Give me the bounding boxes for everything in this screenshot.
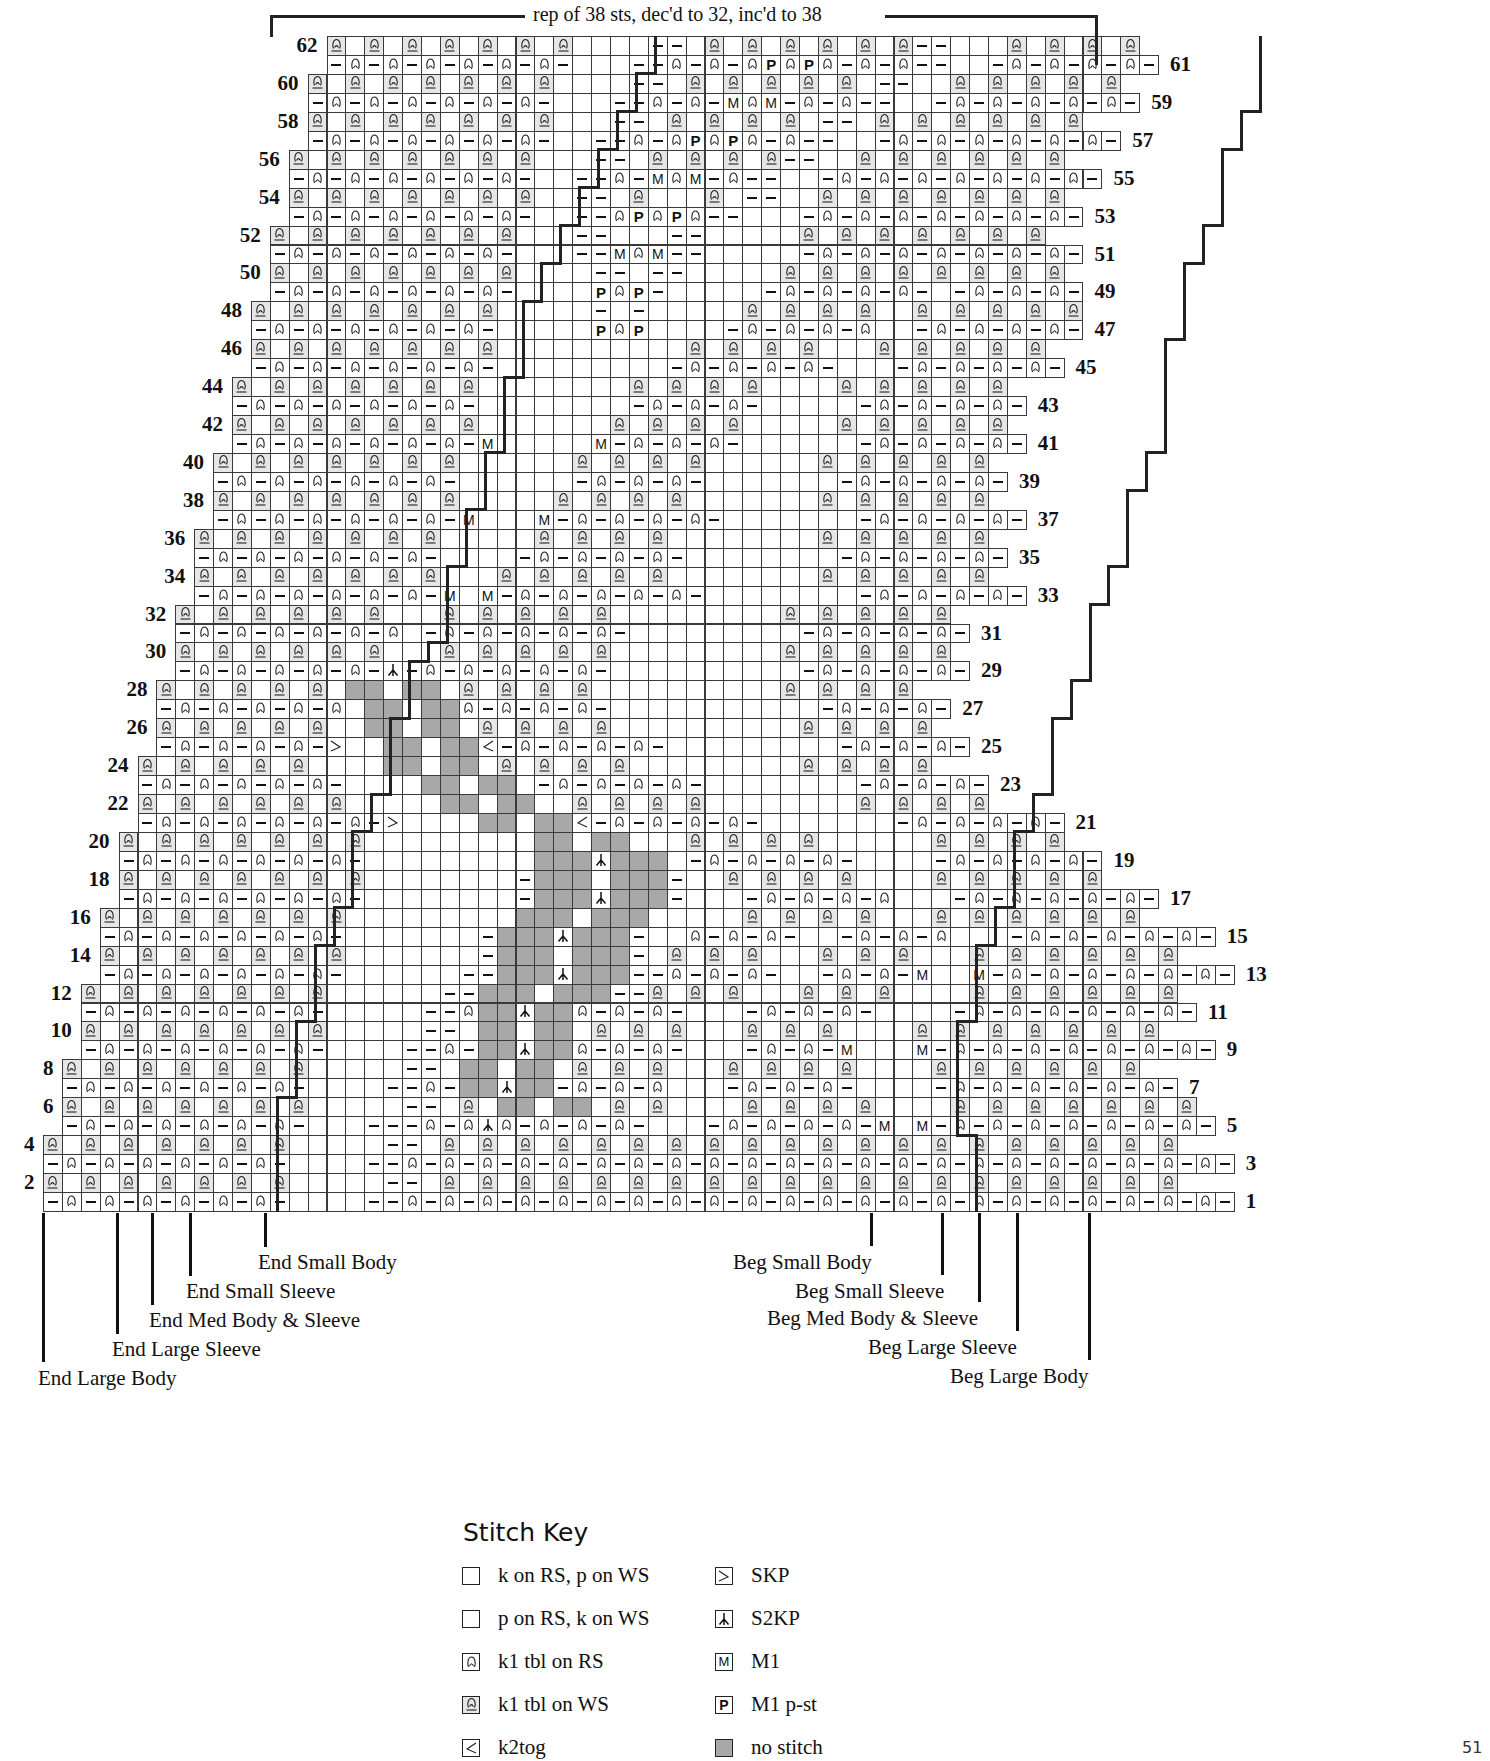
k1-tbl-ws-icon [349, 530, 362, 547]
purl-icon [256, 822, 266, 824]
purl-icon [520, 557, 530, 559]
purl-icon [256, 784, 266, 786]
stitch-k1tbl-ws [950, 112, 970, 132]
stitch-k1tbl-ws [988, 415, 1008, 435]
stitch-k1tbl-ws [364, 605, 384, 625]
stitch-k1tbl-rs [1007, 965, 1027, 985]
stitch-k1tbl-ws [232, 718, 252, 738]
k1-tbl-rs-icon [539, 701, 550, 717]
stitch-k1tbl-rs [175, 889, 195, 909]
stitch-knit [516, 377, 536, 397]
stitch-knit [572, 491, 592, 511]
stitch-knit [818, 756, 838, 776]
beg-marker-line [870, 1213, 873, 1246]
stitch-knit [497, 320, 517, 340]
stitch-knit [345, 453, 365, 473]
stitch-knit [402, 1003, 422, 1023]
stitch-knit [912, 605, 932, 625]
stitch-knit [856, 1059, 876, 1079]
k1-tbl-ws-icon [311, 530, 324, 547]
stitch-knit [761, 226, 781, 246]
purl-icon [672, 1011, 682, 1013]
stitch-knit [421, 1173, 441, 1193]
stitch-k1tbl-rs [742, 93, 762, 113]
repeat-bracket-right [1095, 15, 1098, 65]
stitch-purl [232, 1003, 252, 1023]
stitch-knit [780, 74, 800, 94]
stitch-knit [534, 718, 554, 738]
k1-tbl-ws-icon [292, 454, 305, 471]
stitch-purl [345, 851, 365, 871]
k1-tbl-rs-icon [1049, 891, 1060, 907]
stitch-k1tbl-rs [270, 813, 290, 833]
k1-tbl-rs-icon [331, 398, 342, 414]
purl-icon [1087, 178, 1097, 180]
purl-icon [747, 197, 757, 199]
purl-icon [142, 822, 152, 824]
stitch-purl [610, 472, 630, 492]
stitch-knit [572, 908, 592, 928]
stitch-knit [1101, 984, 1121, 1004]
k1-tbl-ws-icon [273, 833, 286, 850]
purl-icon [464, 102, 474, 104]
stitch-k1tbl-rs [969, 282, 989, 302]
purl-icon [842, 216, 852, 218]
k1-tbl-rs-icon [596, 1194, 607, 1210]
stitch-purl [553, 1078, 573, 1098]
k1-tbl-ws-icon [311, 227, 324, 244]
stitch-purl [421, 1021, 441, 1041]
purl-icon [1012, 822, 1022, 824]
stitch-k1tbl-rs [440, 396, 460, 416]
purl-icon [199, 746, 209, 748]
stitch-k1tbl-rs [723, 927, 743, 947]
stitch-knit [572, 605, 592, 625]
repeat-right-boundary-segment [975, 1192, 978, 1212]
stitch-purl [856, 699, 876, 719]
stitch-knit [497, 377, 517, 397]
stitch-knit [856, 1021, 876, 1041]
stitch-knit [1026, 984, 1046, 1004]
stitch-purl [553, 55, 573, 75]
stitch-knit [818, 813, 838, 833]
k1-tbl-ws-icon [557, 644, 570, 661]
k1-tbl-rs-icon [822, 663, 833, 679]
purl-icon [237, 1201, 247, 1203]
stitch-purl [43, 1192, 63, 1212]
stitch-k1tbl-ws [270, 226, 290, 246]
stitch-knit [534, 188, 554, 208]
stitch-knit [969, 377, 989, 397]
purl-icon [861, 1011, 871, 1013]
purl-icon [237, 1049, 247, 1051]
k1-tbl-ws-icon [878, 341, 891, 358]
k1-tbl-rs-icon [652, 815, 663, 831]
stitch-purl [1120, 93, 1140, 113]
stitch-knit [421, 150, 441, 170]
stitch-k1tbl-rs [629, 1192, 649, 1212]
s2kp-icon [519, 1042, 531, 1058]
stitch-k1tbl-ws [194, 870, 214, 890]
k1-tbl-rs-icon [369, 588, 380, 604]
stitch-knit [289, 226, 309, 246]
k1-tbl-rs-icon [917, 360, 928, 376]
purl-icon [993, 1011, 1003, 1013]
stitch-k1tbl-rs [138, 1154, 158, 1174]
stitch-knit [1101, 1135, 1121, 1155]
repeat-left-boundary-segment [616, 131, 619, 151]
k1-tbl-rs-icon [501, 663, 512, 679]
stitch-k1tbl-ws [213, 794, 233, 814]
stitch-knit [912, 1059, 932, 1079]
stitch-purl [856, 965, 876, 985]
purl-icon [653, 291, 663, 293]
purl-icon [709, 405, 719, 407]
repeat-right-boundary-segment [1221, 207, 1224, 227]
k1-tbl-ws-icon [292, 947, 305, 964]
stitch-k1tbl-ws [837, 74, 857, 94]
stitch-k1tbl-rs [383, 169, 403, 189]
row-number-19: 19 [1113, 850, 1134, 871]
stitch-purl [308, 245, 328, 265]
stitch-knit [950, 946, 970, 966]
stitch-knit [818, 927, 838, 947]
stitch-purl [383, 434, 403, 454]
stitch-purl [572, 586, 592, 606]
purl-icon [1069, 329, 1079, 331]
